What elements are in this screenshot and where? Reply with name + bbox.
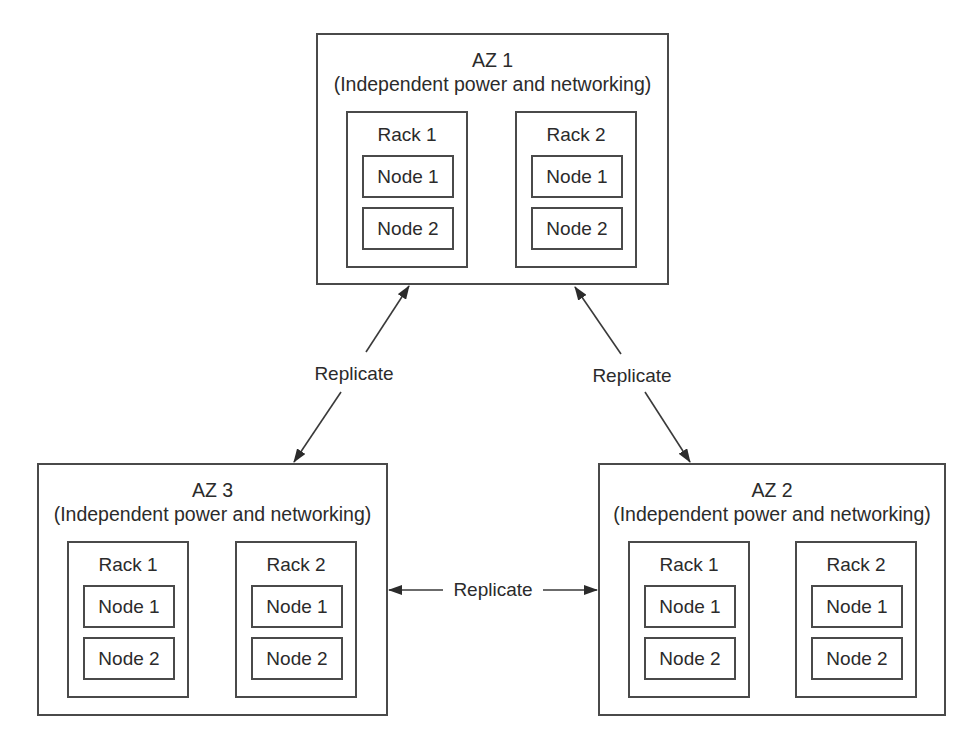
node-1: Node 1 (83, 585, 175, 628)
node-2: Node 2 (644, 637, 736, 680)
rack-2: Rack 2 Node 1 Node 2 (795, 541, 917, 698)
rack-label: Rack 2 (797, 553, 915, 577)
rack-2: Rack 2 Node 1 Node 2 (515, 111, 637, 268)
availability-zone-az1: AZ 1 (Independent power and networking) … (316, 33, 669, 285)
rack-1: Rack 1 Node 1 Node 2 (628, 541, 750, 698)
replicate-label-az1-az3: Replicate (314, 363, 393, 385)
rack-label: Rack 1 (348, 123, 466, 147)
node-2: Node 2 (83, 637, 175, 680)
node-2: Node 2 (251, 637, 343, 680)
rack-label: Rack 2 (517, 123, 635, 147)
az-subtitle: (Independent power and networking) (39, 502, 386, 526)
az-subtitle: (Independent power and networking) (600, 502, 944, 526)
replicate-label-az3-az2: Replicate (453, 579, 532, 601)
availability-zone-az2: AZ 2 (Independent power and networking) … (598, 463, 946, 716)
node-1: Node 1 (531, 155, 623, 198)
node-1: Node 1 (251, 585, 343, 628)
node-1: Node 1 (811, 585, 903, 628)
az-name: AZ 3 (39, 478, 386, 502)
az-name: AZ 1 (318, 48, 667, 72)
rack-1: Rack 1 Node 1 Node 2 (67, 541, 189, 698)
rack-label: Rack 2 (237, 553, 355, 577)
az-subtitle: (Independent power and networking) (318, 72, 667, 96)
node-1: Node 1 (644, 585, 736, 628)
az-name: AZ 2 (600, 478, 944, 502)
replicate-label-az1-az2: Replicate (592, 365, 671, 387)
rack-label: Rack 1 (69, 553, 187, 577)
rack-1: Rack 1 Node 1 Node 2 (346, 111, 468, 268)
rack-2: Rack 2 Node 1 Node 2 (235, 541, 357, 698)
node-2: Node 2 (362, 207, 454, 250)
node-2: Node 2 (811, 637, 903, 680)
availability-zone-az3: AZ 3 (Independent power and networking) … (37, 463, 388, 716)
node-2: Node 2 (531, 207, 623, 250)
node-1: Node 1 (362, 155, 454, 198)
rack-label: Rack 1 (630, 553, 748, 577)
